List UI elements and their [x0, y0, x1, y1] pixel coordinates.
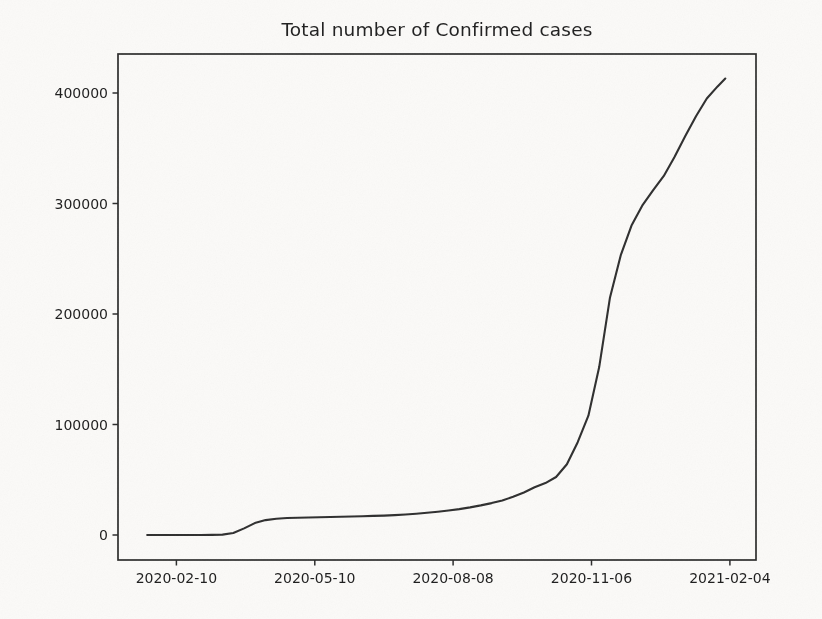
- line-chart-canvas: 2020-02-102020-05-102020-08-082020-11-06…: [0, 0, 822, 619]
- chart-figure: Total number of Confirmed cases 2020-02-…: [0, 0, 822, 619]
- paper-grain-overlay: [0, 0, 822, 619]
